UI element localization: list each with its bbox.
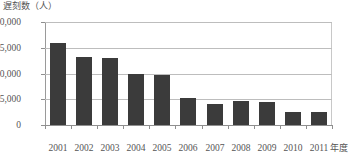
bar[interactable] <box>76 57 92 125</box>
x-axis-tick-mark <box>123 125 124 129</box>
bar[interactable] <box>259 102 275 125</box>
x-axis-tick-mark <box>280 125 281 129</box>
bar-slot <box>254 22 280 125</box>
bar-slot <box>175 22 201 125</box>
bar-slot <box>45 22 71 125</box>
y-axis-tick-label: 0 <box>0 120 21 130</box>
y-axis-tick-label: 20,000 <box>0 17 21 27</box>
bar[interactable] <box>233 101 249 125</box>
x-axis-tick-mark <box>45 125 46 129</box>
bar-slot <box>149 22 175 125</box>
y-axis-tick-label: 15,000 <box>0 43 21 53</box>
bar-slot <box>228 22 254 125</box>
x-axis-tick-mark <box>97 125 98 129</box>
bar[interactable] <box>180 98 196 125</box>
y-axis-tick-label: 5,000 <box>0 94 21 104</box>
bar[interactable] <box>154 75 170 125</box>
bar-slot <box>280 22 306 125</box>
bar[interactable] <box>128 74 144 126</box>
y-axis-title: 遅刻数（人） <box>3 1 57 12</box>
bar-chart: 遅刻数（人） 05,00010,00015,00020,000 20012002… <box>0 0 359 167</box>
bar[interactable] <box>285 112 301 125</box>
x-axis-tick-mark <box>254 125 255 129</box>
bars-group <box>45 22 332 125</box>
x-axis-tick-mark <box>149 125 150 129</box>
bar[interactable] <box>50 43 66 125</box>
bar-slot <box>123 22 149 125</box>
bar-slot <box>202 22 228 125</box>
x-axis-tick-mark <box>332 125 333 129</box>
x-axis-tick-mark <box>71 125 72 129</box>
gridline <box>45 125 332 126</box>
x-axis-tick-mark <box>306 125 307 129</box>
bar-slot <box>71 22 97 125</box>
x-axis-tick-mark <box>175 125 176 129</box>
x-axis-tick-mark <box>202 125 203 129</box>
bar[interactable] <box>207 104 223 125</box>
bar[interactable] <box>311 112 327 125</box>
y-axis-tick-label: 10,000 <box>0 69 21 79</box>
x-axis-tick-mark <box>228 125 229 129</box>
bar-slot <box>97 22 123 125</box>
bar-slot <box>306 22 332 125</box>
x-axis-title: 年度 <box>330 143 348 154</box>
bar[interactable] <box>102 58 118 125</box>
